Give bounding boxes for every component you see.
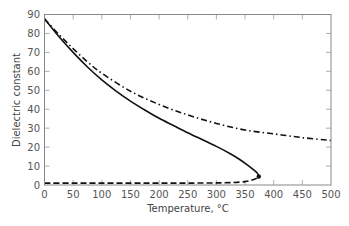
- y-axis-label: Dielectric constant: [11, 53, 22, 147]
- y-tick-label: 90: [27, 9, 40, 20]
- critical-point-marker: [257, 174, 261, 178]
- x-tick-label: 300: [207, 189, 226, 200]
- series-line-dashdot: [45, 19, 332, 141]
- plot-frame: [45, 15, 332, 186]
- x-tick-label: 500: [321, 189, 340, 200]
- x-tick-label: 100: [92, 189, 111, 200]
- y-tick-label: 80: [27, 28, 40, 39]
- x-tick-label: 450: [293, 189, 312, 200]
- series-line-solid: [45, 19, 259, 177]
- x-tick-label: 200: [150, 189, 169, 200]
- series-layer: [45, 19, 332, 183]
- x-tick-label: 150: [121, 189, 140, 200]
- y-tick-label: 40: [27, 104, 40, 115]
- x-tick-label: 0: [41, 189, 47, 200]
- dielectric-chart: 0501001502002503003504004505000102030405…: [0, 0, 349, 226]
- x-tick-label: 350: [236, 189, 255, 200]
- y-tick-label: 10: [27, 161, 40, 172]
- y-tick-label: 70: [27, 47, 40, 58]
- y-tick-label: 20: [27, 142, 40, 153]
- series-line-dashed: [45, 176, 259, 183]
- x-tick-label: 50: [67, 189, 80, 200]
- ticks-layer: 0501001502002503003504004505000102030405…: [27, 9, 340, 200]
- x-tick-label: 400: [264, 189, 283, 200]
- y-tick-label: 50: [27, 85, 40, 96]
- y-tick-label: 0: [34, 180, 40, 191]
- x-axis-label: Temperature, °C: [146, 203, 229, 214]
- y-tick-label: 60: [27, 66, 40, 77]
- x-tick-label: 250: [178, 189, 197, 200]
- y-tick-label: 30: [27, 123, 40, 134]
